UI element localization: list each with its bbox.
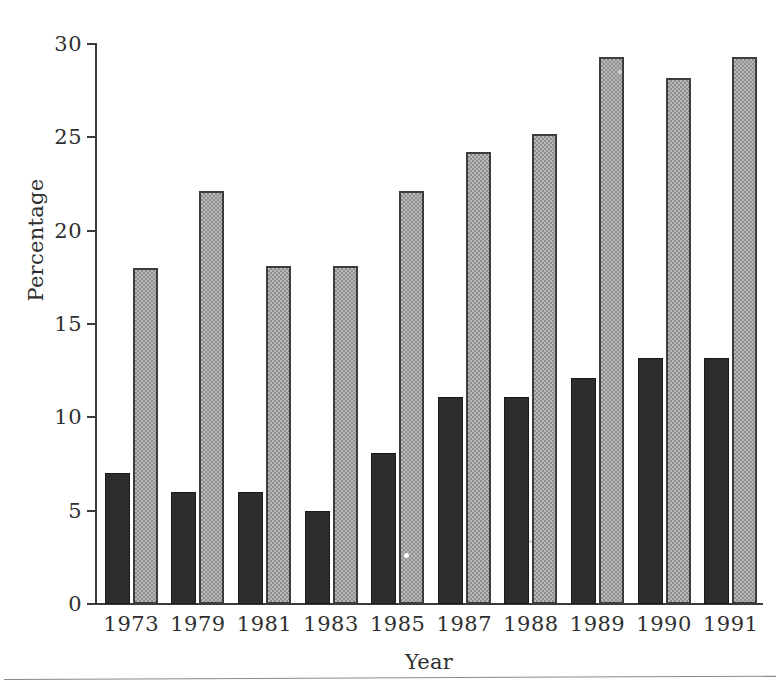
bar-dark-series-1979 xyxy=(171,492,196,604)
bar-light-series-1979 xyxy=(199,191,224,604)
bar-group xyxy=(504,44,557,604)
bar-group xyxy=(238,44,291,604)
y-axis-tick xyxy=(87,43,96,45)
bar-light-series-1988 xyxy=(532,134,557,604)
y-axis-tick-label: 0 xyxy=(68,592,82,616)
bar-group xyxy=(371,44,424,604)
x-axis-tick-label: 1981 xyxy=(237,612,292,636)
y-axis-tick xyxy=(87,603,96,605)
page-divider-rule xyxy=(4,676,776,680)
bar-dark-series-1985 xyxy=(371,453,396,604)
y-axis-tick xyxy=(87,510,96,512)
bar-dark-series-1989 xyxy=(571,378,596,604)
bar-chart-figure: Percentage 051015202530 Year 19731979198… xyxy=(0,0,780,692)
bar-dark-series-1990 xyxy=(638,358,663,604)
x-axis-tick-label: 1991 xyxy=(703,612,758,636)
x-axis-tick-label: 1987 xyxy=(437,612,492,636)
x-axis-tick-label: 1988 xyxy=(503,612,558,636)
y-axis-tick-label: 30 xyxy=(54,32,82,56)
y-axis-tick xyxy=(87,230,96,232)
bar-light-series-1973 xyxy=(133,268,158,604)
y-axis-tick-label: 5 xyxy=(68,499,82,523)
bar-light-series-1990 xyxy=(666,78,691,604)
scan-speck xyxy=(618,70,622,74)
bar-group xyxy=(305,44,358,604)
x-axis-tick-label: 1985 xyxy=(370,612,425,636)
bar-group xyxy=(438,44,491,604)
x-axis-tick-label: 1989 xyxy=(570,612,625,636)
x-axis-tick-label: 1979 xyxy=(170,612,225,636)
y-axis-tick-label: 25 xyxy=(54,125,82,149)
bar-light-series-1983 xyxy=(333,266,358,604)
bar-dark-series-1987 xyxy=(438,397,463,604)
scan-speck xyxy=(529,540,532,543)
x-axis-tick-label: 1990 xyxy=(636,612,691,636)
y-axis-tick-label: 20 xyxy=(54,219,82,243)
y-axis-tick xyxy=(87,416,96,418)
x-axis-tick-label: 1973 xyxy=(104,612,159,636)
bar-light-series-1987 xyxy=(466,152,491,604)
bar-dark-series-1983 xyxy=(305,511,330,604)
y-axis-label: Percentage xyxy=(24,178,48,301)
y-axis-tick-label: 15 xyxy=(54,312,82,336)
y-axis-tick xyxy=(87,323,96,325)
bar-dark-series-1991 xyxy=(704,358,729,604)
bar-light-series-1991 xyxy=(732,57,757,604)
y-axis-tick-label: 10 xyxy=(54,405,82,429)
bar-dark-series-1988 xyxy=(504,397,529,604)
bar-group xyxy=(638,44,691,604)
bar-group xyxy=(704,44,757,604)
x-axis-label: Year xyxy=(96,650,762,674)
scan-speck xyxy=(404,553,409,558)
x-axis-tick-label: 1983 xyxy=(303,612,358,636)
plot-area: 051015202530 xyxy=(96,44,762,604)
y-axis-tick xyxy=(87,136,96,138)
bar-light-series-1985 xyxy=(399,191,424,604)
bar-light-series-1981 xyxy=(266,266,291,604)
bar-dark-series-1981 xyxy=(238,492,263,604)
bar-light-series-1989 xyxy=(599,57,624,604)
bar-group xyxy=(105,44,158,604)
bar-group xyxy=(571,44,624,604)
bar-group xyxy=(171,44,224,604)
bar-dark-series-1973 xyxy=(105,473,130,604)
